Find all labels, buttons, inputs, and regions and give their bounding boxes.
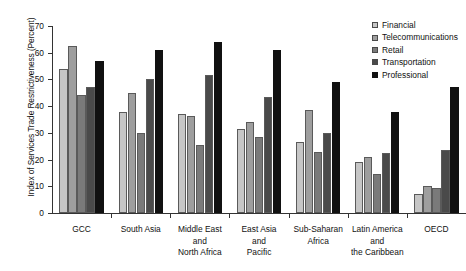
bar-retail-2[interactable] bbox=[196, 145, 204, 213]
bar-professional-1[interactable] bbox=[155, 50, 163, 213]
legend-label: Transportation bbox=[382, 56, 436, 68]
bar-retail-5[interactable] bbox=[373, 174, 381, 213]
legend-swatch-retail bbox=[372, 47, 378, 53]
bar-retail-4[interactable] bbox=[314, 152, 322, 213]
bar-financial-0[interactable] bbox=[59, 69, 67, 213]
bar-retail-0[interactable] bbox=[77, 95, 85, 213]
bar-telecommunications-0[interactable] bbox=[68, 46, 76, 213]
legend-item[interactable]: Professional bbox=[372, 69, 458, 81]
bar-financial-2[interactable] bbox=[178, 114, 186, 213]
bar-transportation-3[interactable] bbox=[264, 97, 272, 213]
bar-financial-6[interactable] bbox=[414, 194, 422, 213]
legend-label: Retail bbox=[382, 44, 403, 56]
bar-telecommunications-2[interactable] bbox=[187, 116, 195, 214]
bar-professional-4[interactable] bbox=[332, 82, 340, 213]
legend-item[interactable]: Transportation bbox=[372, 56, 458, 68]
services-trade-restrictiveness-bar-chart: Index of Services Trade Restrictiveness … bbox=[0, 0, 466, 271]
category-label-line: and bbox=[340, 236, 415, 248]
legend-label: Financial bbox=[382, 19, 416, 31]
legend-label: Professional bbox=[382, 69, 428, 81]
bar-financial-5[interactable] bbox=[355, 162, 363, 213]
bar-telecommunications-6[interactable] bbox=[423, 186, 431, 213]
bar-telecommunications-1[interactable] bbox=[128, 93, 136, 213]
bar-telecommunications-5[interactable] bbox=[364, 157, 372, 213]
bar-telecommunications-4[interactable] bbox=[305, 110, 313, 213]
bar-group bbox=[119, 26, 163, 213]
y-axis-tick-mark bbox=[48, 160, 52, 161]
legend-swatch-financial bbox=[372, 22, 378, 28]
legend-swatch-professional bbox=[372, 72, 378, 78]
y-axis-tick-label: 0 bbox=[20, 209, 44, 217]
y-axis-tick-mark bbox=[48, 213, 52, 214]
category-label-line: OECD bbox=[399, 224, 466, 236]
x-axis-tick-mark bbox=[407, 213, 408, 218]
bar-telecommunications-3[interactable] bbox=[246, 122, 254, 213]
bar-financial-1[interactable] bbox=[119, 112, 127, 214]
y-axis-tick-label: 50 bbox=[20, 75, 44, 83]
y-axis-tick-label: 40 bbox=[20, 102, 44, 110]
x-axis-category-label: OECD bbox=[399, 224, 466, 236]
y-axis-tick-mark bbox=[48, 53, 52, 54]
bar-transportation-6[interactable] bbox=[441, 150, 449, 213]
legend-item[interactable]: Financial bbox=[372, 19, 458, 31]
bar-group bbox=[296, 26, 340, 213]
bar-retail-6[interactable] bbox=[432, 188, 440, 213]
bar-group bbox=[178, 26, 222, 213]
y-axis-line bbox=[52, 26, 53, 213]
y-axis-tick-mark bbox=[48, 79, 52, 80]
bar-professional-5[interactable] bbox=[391, 112, 399, 214]
y-axis-tick-label: 30 bbox=[20, 129, 44, 137]
bar-professional-6[interactable] bbox=[450, 87, 458, 213]
category-label-line: Pacific bbox=[221, 247, 296, 259]
y-axis-tick-mark bbox=[48, 106, 52, 107]
bar-professional-3[interactable] bbox=[273, 50, 281, 213]
bar-transportation-5[interactable] bbox=[382, 153, 390, 213]
bar-transportation-0[interactable] bbox=[86, 87, 94, 213]
bar-group bbox=[237, 26, 281, 213]
bar-transportation-4[interactable] bbox=[323, 133, 331, 213]
bar-financial-4[interactable] bbox=[296, 142, 304, 213]
legend-label: Telecommunications bbox=[382, 31, 458, 43]
plot-area: 010203040506070GCCSouth AsiaMiddle Easta… bbox=[52, 26, 362, 213]
y-axis-tick-label: 10 bbox=[20, 182, 44, 190]
x-axis-tick-mark bbox=[170, 213, 171, 218]
bar-transportation-2[interactable] bbox=[205, 75, 213, 213]
bar-retail-1[interactable] bbox=[137, 133, 145, 213]
bar-professional-0[interactable] bbox=[95, 61, 103, 213]
bar-retail-3[interactable] bbox=[255, 137, 263, 213]
legend-swatch-telecommunications bbox=[372, 35, 378, 41]
x-axis-line bbox=[52, 213, 466, 214]
legend-swatch-transportation bbox=[372, 59, 378, 65]
y-axis-tick-mark bbox=[48, 26, 52, 27]
bar-professional-2[interactable] bbox=[214, 42, 222, 213]
legend-item[interactable]: Retail bbox=[372, 44, 458, 56]
y-axis-tick-mark bbox=[48, 186, 52, 187]
y-axis-tick-label: 60 bbox=[20, 49, 44, 57]
x-axis-tick-mark bbox=[348, 213, 349, 218]
bar-financial-3[interactable] bbox=[237, 129, 245, 213]
y-axis-tick-mark bbox=[48, 133, 52, 134]
x-axis-tick-mark bbox=[111, 213, 112, 218]
y-axis-tick-label: 70 bbox=[20, 22, 44, 30]
x-axis-tick-mark bbox=[229, 213, 230, 218]
legend-item[interactable]: Telecommunications bbox=[372, 31, 458, 43]
bar-group bbox=[59, 26, 103, 213]
bar-transportation-1[interactable] bbox=[146, 79, 154, 213]
category-label-line: the Caribbean bbox=[340, 247, 415, 259]
x-axis-tick-mark bbox=[289, 213, 290, 218]
y-axis-tick-label: 20 bbox=[20, 156, 44, 164]
legend: FinancialTelecommunicationsRetailTranspo… bbox=[372, 19, 458, 81]
